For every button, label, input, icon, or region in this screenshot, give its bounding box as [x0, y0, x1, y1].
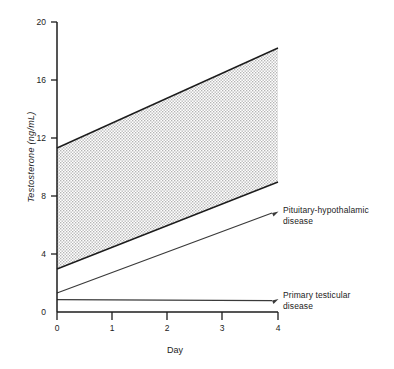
normal-range-band [57, 48, 278, 269]
series-line-primary-testicular [57, 300, 272, 301]
testicular-arrow-icon [272, 299, 279, 304]
pituitary-arrow-icon [272, 212, 279, 217]
y-tick-label-20: 20 [22, 17, 46, 27]
y-tick-label-0: 0 [22, 307, 46, 317]
x-tick-label-3: 3 [215, 323, 229, 333]
annotation-testicular-line2: disease [283, 301, 313, 311]
testosterone-stimulation-chart: 20 16 12 8 4 0 0 1 2 3 4 Testosterone (n… [0, 0, 394, 369]
annotation-pituitary-line2: disease [283, 216, 313, 226]
x-tick-label-0: 0 [50, 323, 64, 333]
chart-plot-area [0, 0, 394, 369]
annotation-pituitary-line1: Pituitary-hypothalamic [283, 205, 369, 215]
x-tick-label-2: 2 [160, 323, 174, 333]
x-axis-title: Day [120, 345, 230, 355]
y-axis-title: Testosterone (ng/mL) [26, 82, 36, 232]
annotation-pituitary-hypothalamic: Pituitary-hypothalamic disease [283, 205, 369, 226]
x-tick-label-4: 4 [271, 323, 285, 333]
annotation-primary-testicular: Primary testicular disease [283, 290, 350, 311]
x-tick-label-1: 1 [105, 323, 119, 333]
y-tick-label-4: 4 [22, 249, 46, 259]
annotation-testicular-line1: Primary testicular [283, 290, 350, 300]
